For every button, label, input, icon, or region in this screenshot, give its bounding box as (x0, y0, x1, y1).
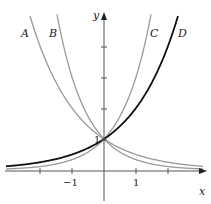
x-tick-label-1: 1 (133, 177, 139, 188)
exponential-chart: −1 1 1 x y A B C D (0, 0, 211, 204)
curve-label-b: B (48, 27, 57, 40)
curve-label-a: A (20, 27, 29, 40)
curve-label-c: C (150, 27, 159, 40)
x-axis-label: x (199, 185, 206, 198)
y-axis-label: y (92, 9, 100, 22)
x-tick-label-neg1: −1 (63, 177, 78, 188)
y-axis-arrow-icon (101, 12, 107, 20)
y-tick-label-1: 1 (94, 134, 100, 145)
curve-label-d: D (177, 27, 187, 40)
